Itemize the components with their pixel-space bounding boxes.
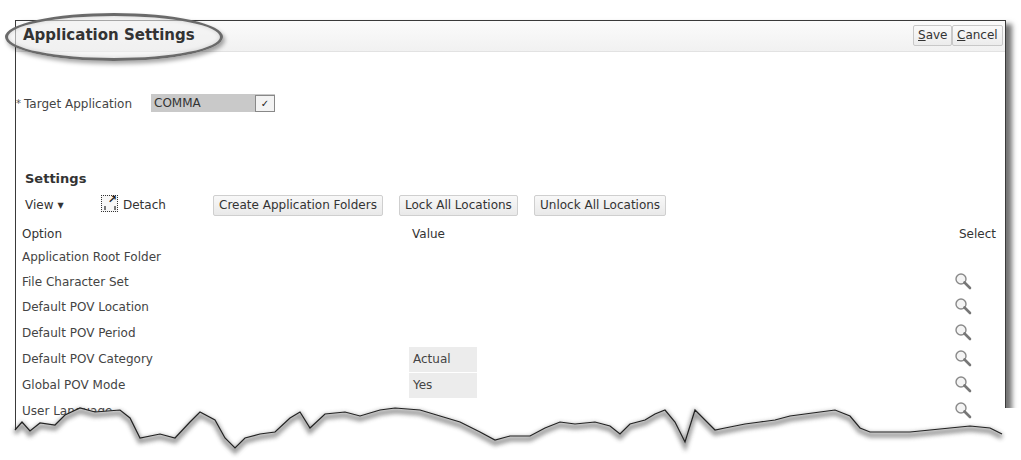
table-header: Option Value Select (16, 227, 1005, 245)
column-header-value[interactable]: Value (412, 227, 445, 241)
settings-section-title: Settings (25, 171, 86, 186)
search-icon[interactable] (954, 297, 972, 315)
target-application-value: COMMA (154, 94, 201, 112)
table-row[interactable]: Default POV Category Actual (16, 352, 1005, 378)
value-cell[interactable]: Actual (409, 347, 477, 372)
option-cell: Default POV Location (22, 300, 149, 314)
detach-label: Detach (123, 198, 166, 212)
target-application-label: Target Application (24, 97, 132, 111)
detach-button[interactable]: ↗Detach (101, 195, 166, 212)
search-icon[interactable] (954, 375, 972, 393)
view-menu-label: View (25, 198, 53, 212)
required-marker: * (16, 98, 21, 109)
chevron-down-icon[interactable]: ✓ (255, 95, 275, 112)
page-title: Application Settings (23, 26, 195, 44)
caret-down-icon: ▼ (57, 201, 63, 210)
panel-header: Application Settings Save Cancel (16, 21, 1005, 52)
target-application-select[interactable]: COMMA ✓ (151, 94, 275, 112)
settings-toolbar: View▼ ↗Detach Create Application Folders… (16, 194, 1005, 218)
search-icon[interactable] (954, 349, 972, 367)
cancel-label-rest: ancel (965, 28, 997, 42)
table-row[interactable]: Default POV Period (16, 326, 1005, 352)
view-menu[interactable]: View▼ (25, 198, 64, 212)
column-header-select: Select (959, 227, 996, 241)
screenshot-stage: Application Settings Save Cancel * Targe… (0, 0, 1021, 460)
table-row[interactable]: Default POV Location (16, 300, 1005, 326)
detach-icon: ↗ (101, 195, 118, 212)
save-label-rest: ave (926, 28, 948, 42)
option-cell: Global POV Mode (22, 378, 125, 392)
search-icon[interactable] (954, 272, 972, 290)
table-row[interactable]: File Character Set (16, 275, 1005, 301)
lock-all-locations-button[interactable]: Lock All Locations (399, 195, 518, 216)
application-settings-panel: Application Settings Save Cancel * Targe… (15, 20, 1006, 460)
column-header-option[interactable]: Option (22, 227, 62, 241)
option-cell: File Character Set (22, 275, 129, 289)
option-cell: Application Root Folder (22, 250, 161, 264)
create-application-folders-button[interactable]: Create Application Folders (213, 195, 383, 216)
unlock-all-locations-button[interactable]: Unlock All Locations (534, 195, 666, 216)
search-icon[interactable] (954, 323, 972, 341)
cancel-button[interactable]: Cancel (952, 25, 1003, 46)
torn-edge-decoration (0, 400, 1021, 460)
value-cell[interactable]: Yes (409, 373, 477, 398)
save-button[interactable]: Save (913, 25, 952, 46)
table-row[interactable]: Application Root Folder (16, 250, 1005, 276)
option-cell: Default POV Category (22, 352, 153, 366)
option-cell: Default POV Period (22, 326, 136, 340)
save-accelerator: S (918, 28, 926, 42)
